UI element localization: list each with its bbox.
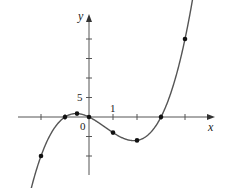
origin-label: 0 <box>80 120 86 132</box>
data-point <box>75 111 80 116</box>
data-point <box>39 154 44 159</box>
axes <box>18 18 212 175</box>
y-axis-label: y <box>77 9 84 23</box>
data-point <box>135 138 140 143</box>
function-curve <box>27 0 194 188</box>
data-points <box>39 37 188 159</box>
x-unit-label: 1 <box>110 102 116 114</box>
x-axis-label: x <box>207 120 214 134</box>
y-axis-arrow-icon <box>86 14 92 22</box>
data-point <box>63 115 68 120</box>
data-point <box>159 115 164 120</box>
axis-ticks <box>41 39 185 156</box>
data-point <box>183 37 188 42</box>
y-unit-label: 5 <box>77 91 83 103</box>
function-graph: y x 0 1 5 <box>0 0 227 188</box>
data-point <box>87 115 92 120</box>
data-point <box>111 130 116 135</box>
